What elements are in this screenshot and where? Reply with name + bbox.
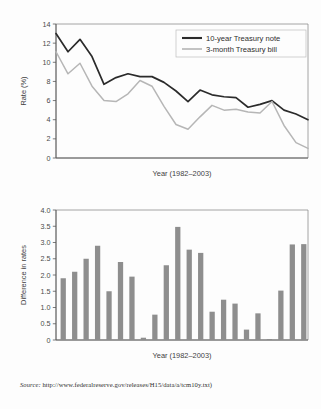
bar bbox=[72, 272, 77, 340]
plot-frame bbox=[56, 210, 308, 340]
bar bbox=[106, 291, 111, 340]
y-tick-label: 0 bbox=[47, 154, 51, 163]
source-label: Source: bbox=[20, 381, 41, 388]
y-tick-label: 0.5 bbox=[41, 319, 51, 328]
y-tick-label: 0 bbox=[47, 336, 51, 345]
y-tick-label: 2.0 bbox=[41, 271, 51, 280]
line-chart-panel: 02468101214Year (1982–2003)Rate (%)10-ye… bbox=[0, 0, 321, 196]
y-tick-label: 3.5 bbox=[41, 222, 51, 231]
bar bbox=[187, 250, 192, 340]
bar bbox=[152, 315, 157, 340]
y-tick-label: 2.5 bbox=[41, 254, 51, 263]
bar bbox=[118, 262, 123, 340]
y-axis-title: Difference in rates bbox=[19, 245, 28, 305]
series-line-treasury-bill bbox=[56, 52, 308, 149]
bar bbox=[244, 330, 249, 340]
line-chart-svg: 02468101214Year (1982–2003)Rate (%)10-ye… bbox=[0, 0, 321, 196]
legend-label-treasury-note: 10-year Treasury note bbox=[206, 34, 280, 43]
y-tick-label: 1.0 bbox=[41, 303, 51, 312]
bar bbox=[61, 278, 66, 340]
bar bbox=[198, 253, 203, 340]
bar bbox=[141, 338, 146, 340]
y-tick-label: 14 bbox=[43, 20, 51, 29]
bar-chart-svg: 00.51.01.52.02.53.03.54.0Year (1982–2003… bbox=[0, 196, 321, 386]
y-tick-label: 1.5 bbox=[41, 287, 51, 296]
y-tick-label: 2 bbox=[47, 134, 51, 143]
bar bbox=[255, 313, 260, 340]
bar bbox=[84, 259, 89, 340]
bar bbox=[290, 244, 295, 340]
bar bbox=[278, 291, 283, 340]
legend-label-treasury-bill: 3-month Treasury bill bbox=[206, 45, 277, 54]
y-tick-label: 4.0 bbox=[41, 206, 51, 215]
y-tick-label: 4 bbox=[47, 115, 51, 124]
bar bbox=[175, 227, 180, 340]
bar bbox=[95, 246, 100, 340]
bar bbox=[210, 312, 215, 340]
bar bbox=[164, 265, 169, 340]
bar bbox=[221, 300, 226, 340]
x-axis-title: Year (1982–2003) bbox=[153, 351, 212, 360]
bar bbox=[232, 304, 237, 340]
x-axis-title: Year (1982–2003) bbox=[153, 169, 212, 178]
y-tick-label: 10 bbox=[43, 58, 51, 67]
bar bbox=[301, 244, 306, 340]
y-tick-label: 3.0 bbox=[41, 238, 51, 247]
bar bbox=[267, 339, 272, 340]
source-url: http://www.federalreserve.gov/releases/H… bbox=[42, 381, 212, 388]
y-tick-label: 6 bbox=[47, 96, 51, 105]
figure-container: 02468101214Year (1982–2003)Rate (%)10-ye… bbox=[0, 0, 321, 409]
y-tick-label: 8 bbox=[47, 77, 51, 86]
y-tick-label: 12 bbox=[43, 39, 51, 48]
y-axis-title: Rate (%) bbox=[19, 76, 28, 105]
source-note: Source: http://www.federalreserve.gov/re… bbox=[20, 381, 312, 388]
bar-chart-panel: 00.51.01.52.02.53.03.54.0Year (1982–2003… bbox=[0, 196, 321, 409]
bar bbox=[129, 277, 134, 340]
